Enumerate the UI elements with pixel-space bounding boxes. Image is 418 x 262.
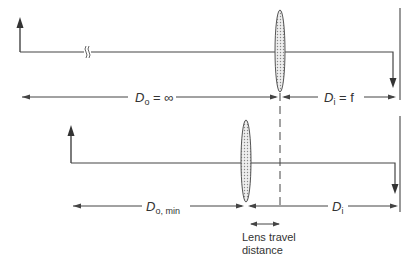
bottom-object-distance-label: Do, min bbox=[146, 199, 180, 216]
bottom-image-distance-label: Di bbox=[332, 199, 343, 216]
top-object-distance-label: Do = ∞ bbox=[135, 90, 174, 107]
top-image-distance-label: Di = f bbox=[324, 90, 354, 107]
bottom-ray-path bbox=[71, 163, 395, 186]
top-image-arrowhead-icon bbox=[390, 78, 397, 88]
bottom-dimension-line bbox=[73, 204, 398, 209]
lens-travel-indicator: Lens travel distance bbox=[242, 222, 296, 257]
lens-focus-diagram: Do = ∞ Di = f Do, min Di Lens tr bbox=[0, 0, 418, 262]
bottom-configuration: Do, min Di bbox=[68, 116, 401, 216]
lens-travel-label-line1: Lens travel bbox=[242, 231, 296, 243]
top-object-arrow bbox=[17, 17, 24, 52]
lens-travel-label-line2: distance bbox=[242, 244, 283, 256]
arrowhead-up-icon bbox=[68, 125, 75, 136]
top-lens bbox=[275, 10, 285, 92]
arrowhead-left-icon bbox=[250, 222, 257, 227]
bottom-lens bbox=[241, 120, 251, 202]
top-configuration: Do = ∞ Di = f bbox=[17, 8, 401, 107]
bottom-image-arrowhead-icon bbox=[392, 184, 399, 194]
arrowhead-up-icon bbox=[17, 17, 24, 28]
bottom-object-arrow bbox=[68, 125, 75, 163]
arrowhead-right-icon bbox=[273, 222, 280, 227]
top-ray-path bbox=[20, 52, 393, 80]
